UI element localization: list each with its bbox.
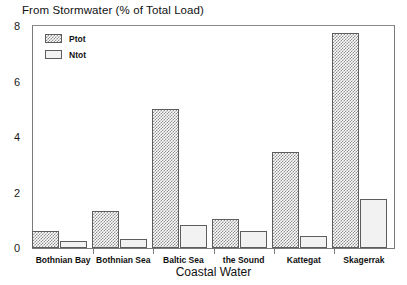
y-axis-tick-label: 0	[14, 242, 20, 254]
bar-ptot	[152, 109, 179, 248]
y-axis: 02468	[0, 0, 32, 285]
chart-title: From Stormwater (% of Total Load)	[22, 4, 204, 16]
x-axis-tick-mark	[214, 249, 215, 254]
bars-layer	[33, 26, 394, 248]
bar-ptot	[332, 33, 359, 248]
bar-ntot	[120, 239, 147, 248]
bar-ptot	[212, 219, 239, 248]
bar-ptot	[92, 211, 119, 248]
x-axis-category-label: Skagerrak	[343, 255, 384, 265]
y-axis-tick-label: 8	[14, 20, 20, 32]
x-axis-tick-mark	[153, 249, 154, 254]
x-axis-category-label: Bothnian Sea	[96, 255, 150, 265]
x-axis-tick-mark	[93, 249, 94, 254]
legend-swatch-ntot	[45, 50, 62, 59]
x-axis-category-label: Baltic Sea	[163, 255, 204, 265]
bar-ptot	[272, 152, 299, 248]
y-axis-tick-label: 2	[14, 187, 20, 199]
x-axis-tick-mark	[274, 249, 275, 254]
legend-item: Ntot	[45, 48, 86, 61]
bar-chart-figure: From Stormwater (% of Total Load) 02468 …	[0, 0, 407, 285]
plot-area	[32, 25, 395, 249]
bar-ntot	[60, 241, 87, 248]
x-axis-category-label: Kattegat	[287, 255, 321, 265]
y-axis-tick-label: 6	[14, 76, 20, 88]
x-axis-category-label: Bothnian Bay	[36, 255, 91, 265]
bar-ptot	[32, 231, 59, 248]
bar-ntot	[180, 225, 207, 248]
x-axis-category-label: the Sound	[223, 255, 265, 265]
bar-ntot	[360, 199, 387, 248]
legend-label: Ntot	[69, 50, 86, 60]
legend-item: Ptot	[45, 32, 86, 45]
bar-ntot	[300, 236, 327, 248]
x-axis-title: Coastal Water	[33, 265, 394, 279]
legend-swatch-ptot	[45, 34, 62, 43]
bar-ntot	[240, 231, 267, 248]
x-axis-tick-mark	[334, 249, 335, 254]
chart-legend: PtotNtot	[45, 32, 86, 64]
y-axis-tick-label: 4	[14, 131, 20, 143]
legend-label: Ptot	[69, 34, 86, 44]
